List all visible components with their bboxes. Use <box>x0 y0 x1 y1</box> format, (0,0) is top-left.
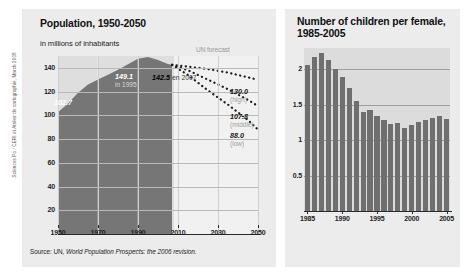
population-y-tick-label: 100 <box>25 111 55 118</box>
population-x-tick-mark <box>218 225 219 228</box>
fertility-bar <box>416 122 421 211</box>
fertility-bar <box>437 116 442 211</box>
fertility-bar <box>395 123 400 211</box>
fertility-bar <box>409 125 414 211</box>
fertility-bar <box>381 120 386 211</box>
fertility-x-tick-label: 2005 <box>427 215 464 222</box>
population-vertical-rule <box>218 56 219 234</box>
un-forecast-label: UN forecast <box>196 46 230 53</box>
fertility-bar <box>402 128 407 211</box>
credit-line: Sciences Po / CERI et Atelier de cartogr… <box>12 58 17 178</box>
population-x-tick-mark <box>258 225 259 228</box>
population-y-tick-label: 140 <box>25 64 55 71</box>
population-x-tick-label: 1950 <box>38 229 78 236</box>
population-x-tick-mark <box>98 225 99 228</box>
population-x-tick-mark <box>178 225 179 228</box>
annotation-start-value: 102.7 <box>54 99 72 107</box>
fertility-bar <box>423 120 428 211</box>
fertility-x-tick-mark <box>447 211 448 214</box>
population-vertical-rule <box>98 56 99 234</box>
fertility-y-tick-label: 1.5 <box>278 101 302 108</box>
fertility-bar <box>333 69 338 211</box>
fertility-bar <box>305 65 310 211</box>
fertility-plot-area <box>304 48 450 211</box>
population-gridline <box>58 210 258 211</box>
fertility-bar <box>430 118 435 211</box>
fertility-y-tick-label: 0.5 <box>278 172 302 179</box>
population-vertical-rule <box>138 56 139 234</box>
annotation-2007: 142.5en 2007 <box>152 66 197 84</box>
fertility-bar <box>354 101 359 211</box>
fertility-bar <box>367 110 372 211</box>
fertility-bar <box>319 53 324 211</box>
fertility-bar <box>326 60 331 211</box>
fertility-y-tick-label: 2 <box>278 65 302 72</box>
population-x-tick-label: 1990 <box>118 229 158 236</box>
population-x-tick-label: 2050 <box>238 229 278 236</box>
fertility-bar <box>374 116 379 211</box>
annotation-middle-scenario: 107.8 (middle) <box>230 113 254 129</box>
fertility-x-tick-mark <box>377 211 378 214</box>
population-y-tick-label: 40 <box>25 183 55 190</box>
population-vertical-rule <box>258 56 259 234</box>
fertility-x-tick-mark <box>412 211 413 214</box>
population-gridline <box>58 92 258 93</box>
population-y-tick-label: 60 <box>25 159 55 166</box>
fertility-bar <box>444 119 449 211</box>
fertility-y-axis: 0.511.52 <box>278 48 302 211</box>
population-gridline <box>58 115 258 116</box>
fertility-x-axis-line <box>304 211 452 212</box>
population-x-tick-mark <box>138 225 139 228</box>
population-gridline <box>58 187 258 188</box>
infographic-root: Sciences Po / CERI et Atelier de cartogr… <box>0 0 464 276</box>
annotation-low-scenario: 88.0 (low) <box>230 132 244 148</box>
population-gridline <box>58 163 258 164</box>
population-vertical-rule <box>58 56 59 234</box>
fertility-bar <box>388 124 393 211</box>
annotation-peak: 149.1 in 1995 <box>115 73 137 89</box>
fertility-y-tick-label: 1 <box>278 136 302 143</box>
population-x-tick-label: 1970 <box>78 229 118 236</box>
fertility-bar <box>340 77 345 211</box>
population-y-tick-label: 80 <box>25 135 55 142</box>
population-y-axis: 20406080100120140 <box>22 56 55 234</box>
population-gridline <box>58 139 258 140</box>
population-x-tick-label: 2030 <box>198 229 238 236</box>
population-y-tick-label: 120 <box>25 88 55 95</box>
source-note: Source: UN, World Population Prospects: … <box>30 248 197 255</box>
fertility-x-tick-mark <box>307 211 308 214</box>
fertility-bar <box>312 57 317 211</box>
fertility-chart-title: Number of children per female, 1985-2005 <box>297 16 457 39</box>
fertility-bar <box>361 112 366 211</box>
population-y-tick-label: 20 <box>25 206 55 213</box>
annotation-high-scenario: 130.0 (high) <box>230 88 248 104</box>
fertility-x-tick-mark <box>342 211 343 214</box>
population-x-tick-label: 2010 <box>158 229 198 236</box>
population-x-tick-mark <box>58 225 59 228</box>
fertility-bar <box>347 88 352 211</box>
